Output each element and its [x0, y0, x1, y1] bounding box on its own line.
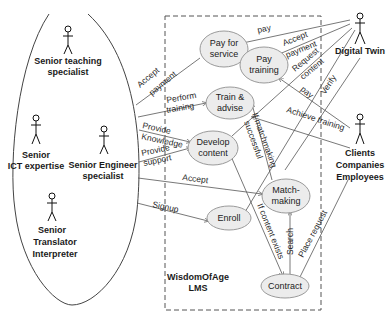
stick-figure-icon — [355, 114, 365, 144]
svg-text:Pay: Pay — [256, 54, 272, 64]
use-case-matchmaking[interactable]: Match- making — [262, 179, 310, 213]
svg-text:Digital Twin: Digital Twin — [335, 46, 385, 56]
actor-senior-engineer-specialist[interactable]: Senior Engineer specialist — [68, 126, 138, 181]
svg-text:specialist: specialist — [82, 171, 123, 181]
svg-text:ICT expertise: ICT expertise — [8, 161, 65, 171]
svg-text:Clients: Clients — [345, 148, 375, 158]
svg-text:Pay for: Pay for — [210, 38, 239, 48]
use-case-enroll[interactable]: Enroll — [207, 206, 251, 230]
svg-text:Train &: Train & — [216, 92, 245, 102]
svg-text:Senior: Senior — [38, 225, 67, 235]
edge-label-accept: Accept — [182, 172, 210, 185]
system-name: WisdomOfAge — [167, 272, 229, 282]
svg-text:Match-: Match- — [272, 185, 300, 195]
actor-senior-translator-interpreter[interactable]: Senior Translator Interpreter — [32, 193, 78, 259]
svg-text:Senior Engineer: Senior Engineer — [68, 160, 138, 170]
svg-text:content: content — [198, 148, 228, 158]
use-case-train-advise[interactable]: Train & advise — [206, 87, 254, 119]
actor-digital-twin[interactable]: Digital Twin — [335, 13, 385, 56]
svg-text:Companies: Companies — [336, 160, 385, 170]
edge-label-search: Search — [285, 228, 295, 255]
use-case-contract[interactable]: Contract — [261, 274, 309, 298]
svg-text:specialist: specialist — [47, 67, 88, 77]
svg-text:Senior teaching: Senior teaching — [34, 56, 102, 66]
svg-text:Develop: Develop — [196, 137, 229, 147]
svg-text:Enroll: Enroll — [217, 213, 240, 223]
system-subname: LMS — [189, 283, 208, 293]
svg-text:Employees: Employees — [336, 172, 384, 182]
use-case-diagram: Pay for service Pay training Train & adv… — [0, 0, 392, 315]
edge-label-pay: pay — [256, 22, 272, 35]
stick-figure-icon — [63, 26, 73, 54]
svg-text:Translator: Translator — [33, 237, 77, 247]
svg-text:advise: advise — [217, 103, 243, 113]
svg-text:Senior: Senior — [22, 150, 51, 160]
stick-figure-icon — [355, 13, 365, 44]
svg-text:training: training — [249, 65, 279, 75]
stick-figure-icon — [99, 126, 109, 154]
svg-text:service: service — [210, 49, 239, 59]
svg-text:making: making — [271, 196, 300, 206]
stick-figure-icon — [47, 193, 57, 221]
actor-senior-teaching-specialist[interactable]: Senior teaching specialist — [34, 26, 102, 77]
svg-text:Interpreter: Interpreter — [32, 249, 78, 259]
use-case-pay-training[interactable]: Pay training — [240, 47, 288, 83]
edge-label-signup: Signup — [152, 199, 180, 214]
edge-label-verify: Verify — [318, 72, 338, 96]
use-case-develop-content[interactable]: Develop content — [188, 131, 238, 165]
stick-figure-icon — [31, 115, 41, 144]
svg-text:Contract: Contract — [268, 281, 303, 291]
